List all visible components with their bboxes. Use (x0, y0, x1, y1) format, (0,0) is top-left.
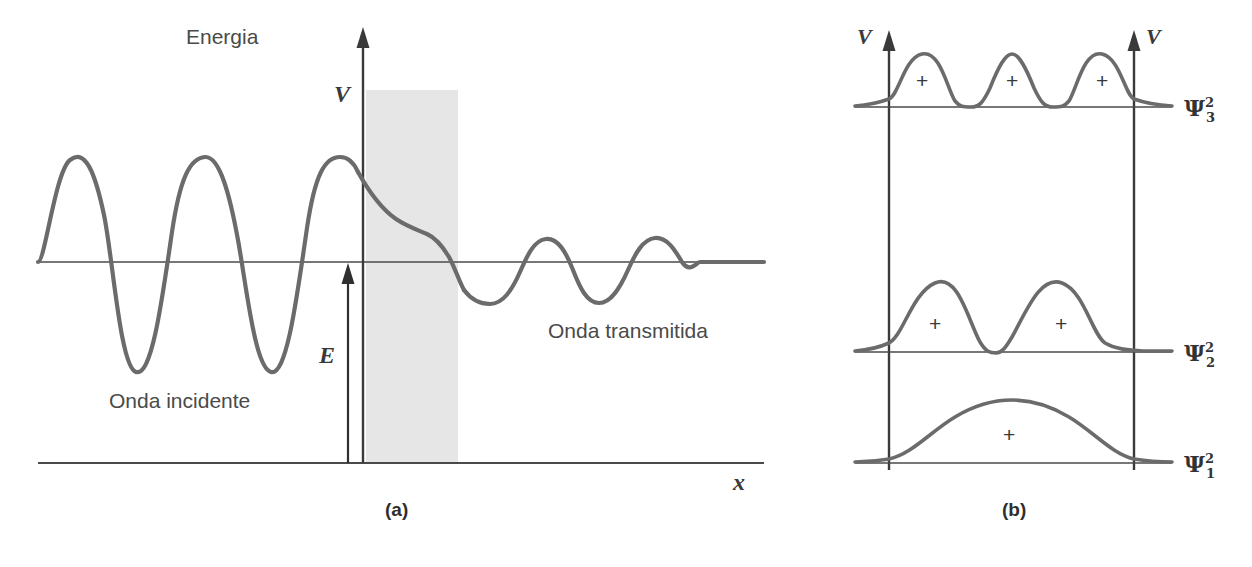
psi3-symbol: Ψ (1184, 94, 1205, 121)
energy-level-arrowhead (342, 263, 355, 284)
panel-a-y-axis-label: Energia (186, 26, 258, 47)
psi2-symbol: Ψ (1184, 339, 1205, 366)
panel-a-barrier-potential-label: V (334, 82, 350, 106)
panel-a-graphic (0, 0, 800, 567)
panel-b-caption: (b) (1002, 500, 1026, 519)
transmitted-wave-curve (464, 238, 764, 304)
panel-a-caption: (a) (385, 500, 408, 519)
potential-barrier-region (366, 90, 458, 463)
panel-a-transmitted-wave-label: Onda transmitida (548, 320, 708, 341)
psi3-plus-sign-1: + (916, 70, 928, 91)
left-wall-arrowhead (883, 30, 896, 51)
psi3-level-label: Ψ23 (1184, 94, 1215, 125)
psi2-plus-sign-2: + (1055, 313, 1067, 334)
panel-b-graphic (800, 0, 1252, 567)
panel-a-x-axis-label: x (733, 470, 745, 494)
psi1-level-label: Ψ21 (1184, 450, 1215, 481)
right-wall-arrowhead (1128, 30, 1141, 51)
panel-a-incident-wave-label: Onda incidente (109, 390, 250, 411)
psi3-plus-sign-2: + (1006, 70, 1018, 91)
psi1-subscript: 1 (1206, 466, 1215, 481)
psi2-superscript: 2 (1205, 340, 1214, 355)
energy-axis-arrowhead (357, 27, 370, 48)
psi1-symbol: Ψ (1184, 450, 1205, 477)
psi2-curve (855, 282, 1172, 353)
figure-container: Energia V E x Onda incidente Onda transm… (0, 0, 1252, 567)
psi2-level-label: Ψ22 (1184, 339, 1215, 370)
psi3-subscript: 3 (1206, 110, 1215, 125)
panel-a-energy-label: E (319, 343, 335, 367)
psi2-subscript: 2 (1206, 355, 1215, 370)
psi1-superscript: 2 (1205, 451, 1214, 466)
psi2-plus-sign-1: + (929, 313, 941, 334)
psi3-superscript: 2 (1205, 95, 1214, 110)
panel-b-right-potential-label: V (1146, 26, 1161, 48)
psi1-plus-sign-1: + (1003, 424, 1015, 445)
panel-b-left-potential-label: V (857, 26, 872, 48)
psi3-plus-sign-3: + (1096, 70, 1108, 91)
incident-wave-curve (38, 157, 358, 372)
